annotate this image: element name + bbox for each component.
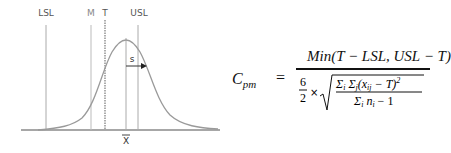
formula-numerator: Min(T − LSL, USL − T) [307, 48, 451, 65]
equals-sign: = [276, 69, 285, 87]
svg-text:6: 6 [300, 75, 306, 89]
svg-text:×: × [310, 87, 318, 98]
xbar-label: X [123, 136, 129, 146]
t-label: T [102, 8, 108, 18]
distribution-curve [38, 40, 218, 130]
fraction-bar [296, 68, 430, 70]
usl-label: USL [130, 8, 147, 18]
formula-lhs: Cpm [232, 70, 256, 90]
svg-text:2: 2 [300, 91, 306, 105]
lsl-label: LSL [38, 8, 54, 18]
svg-text:Σi Σj(xij − T)2: Σi Σj(xij − T)2 [335, 76, 400, 92]
normal-distribution-diagram [0, 0, 230, 153]
svg-text:Σi ni − 1: Σi ni − 1 [353, 94, 393, 109]
s-label: s [130, 54, 135, 64]
m-label: M [87, 8, 95, 18]
